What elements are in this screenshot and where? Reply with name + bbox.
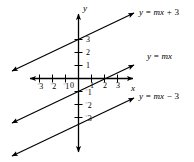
eq-equals: = — [151, 51, 161, 61]
eq-rhs: mx — [161, 51, 172, 61]
eq-equals: = — [143, 7, 153, 17]
eq-rhs: mx — [153, 91, 164, 101]
x-tick-label--3: ⁻3 — [34, 81, 46, 91]
x-axis-label: x — [131, 83, 135, 93]
y-tick-label-1: 1 — [86, 61, 98, 70]
eq-operator: − — [164, 91, 174, 101]
eq-equals: = — [143, 91, 153, 101]
y-axis — [75, 14, 83, 152]
eq-constant: 3 — [174, 7, 179, 17]
y-tick-digits-1: 1 — [86, 61, 90, 70]
y-tick-digits-2: 2 — [86, 48, 90, 57]
x-tick-digits-2: 2 — [103, 81, 107, 90]
equation-label-line-bottom: y = mx − 3 — [139, 91, 179, 101]
y-tick-label--1: ⁻1 — [85, 87, 97, 97]
x-tick-label--1: ⁻1 — [60, 81, 72, 91]
y-tick-digits--1: 1 — [88, 88, 92, 97]
eq-operator: + — [164, 7, 174, 17]
equation-label-line-top: y = mx + 3 — [139, 7, 179, 17]
y-tick-label--3: ⁻3 — [85, 113, 97, 123]
x-tick-label-3: 3 — [112, 81, 124, 90]
x-tick-digits-3: 3 — [116, 81, 120, 90]
y-tick-label-3: 3 — [86, 35, 98, 44]
y-tick-digits--3: 3 — [88, 114, 92, 123]
x-tick-label--2: ⁻2 — [47, 81, 59, 91]
line-y-equals-mx-plus-3 — [12, 13, 134, 71]
y-tick-label-2: 2 — [86, 48, 98, 57]
y-tick-label--2: ⁻2 — [85, 100, 97, 110]
x-tick-digits--3: 3 — [39, 82, 43, 91]
x-tick-label-2: 2 — [99, 81, 111, 90]
y-tick-digits-3: 3 — [86, 35, 90, 44]
x-tick-digits--1: 1 — [65, 82, 69, 91]
equation-label-line-mid: y = mx — [147, 51, 172, 61]
line-y-equals-mx — [12, 65, 134, 123]
y-tick-digits--2: 2 — [88, 101, 92, 110]
x-tick-digits--2: 2 — [52, 82, 56, 91]
y-axis-label: y — [83, 3, 87, 13]
line-graph-figure: y x 0 ⁻3 ⁻2 ⁻1 1 2 3 3 2 1 ⁻1 ⁻2 ⁻3 y = … — [0, 0, 194, 162]
line-y-equals-mx-minus-3 — [12, 98, 134, 156]
eq-rhs: mx — [153, 7, 164, 17]
eq-constant: 3 — [174, 91, 179, 101]
